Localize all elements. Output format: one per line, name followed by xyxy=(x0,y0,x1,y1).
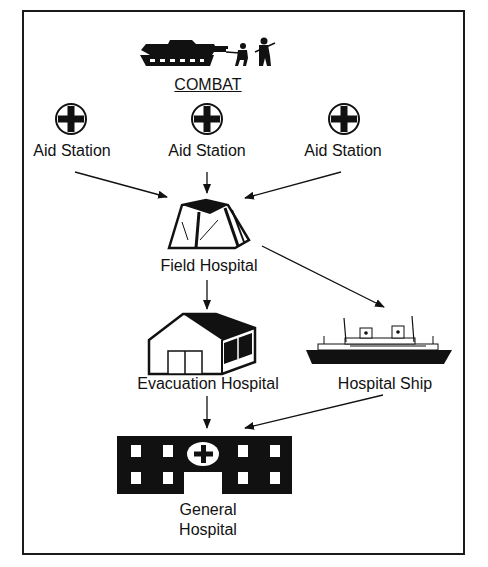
evacuation-hospital-label: Evacuation Hospital xyxy=(137,374,278,393)
combat-label: COMBAT xyxy=(174,75,241,94)
tent-icon xyxy=(169,200,249,248)
arrow-field-ship xyxy=(262,246,384,307)
arrow-aid1-field xyxy=(75,172,167,197)
aid-station-label-2: Aid Station xyxy=(168,141,245,160)
hospital-ship-icon xyxy=(306,316,452,364)
general-hospital-label-line2: Hospital xyxy=(179,520,237,539)
soldiers-icon xyxy=(226,38,275,67)
aid-station-label-1: Aid Station xyxy=(33,141,110,160)
general-hospital-icon xyxy=(117,436,292,494)
arrow-ship-general xyxy=(245,395,383,428)
field-hospital-label: Field Hospital xyxy=(161,256,258,275)
hospital-ship-label: Hospital Ship xyxy=(338,374,432,393)
evacuation-building-icon xyxy=(149,314,255,374)
diagram-canvas xyxy=(0,0,488,567)
aid-station-label-3: Aid Station xyxy=(304,141,381,160)
general-hospital-label-line1: General xyxy=(180,500,237,519)
tank-icon xyxy=(140,40,228,66)
arrow-aid3-field xyxy=(245,172,341,198)
aid-station-icon-3 xyxy=(329,104,359,134)
aid-station-icon-2 xyxy=(192,104,222,134)
aid-station-icon-1 xyxy=(56,104,86,134)
